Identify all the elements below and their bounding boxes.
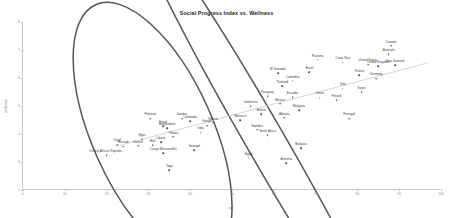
data-point-label: South Africa [259,130,276,133]
data-point-label: Senegal [189,145,200,148]
data-point [388,53,390,55]
data-point [168,170,170,172]
data-point-label: Armenia [281,158,293,161]
data-point [250,105,252,107]
data-point-label: Togo [166,165,173,168]
y-axis-label: wellness [4,99,8,113]
data-point [206,125,208,127]
data-point-label: Bolivia [257,109,266,112]
annotation-layer [40,0,415,218]
data-point [342,62,344,64]
data-point [281,86,283,88]
x-tick-label: 50 [230,192,234,196]
data-point [377,65,379,67]
y-tick-label: 7 [18,48,20,52]
data-point [283,117,285,119]
data-point [359,74,361,76]
data-point-label: Liberia [156,137,165,140]
data-point-label: Paraguay [261,91,274,94]
y-tick-mark [21,50,23,51]
x-tick-label: 0 [22,192,24,196]
x-tick-label: 80 [356,192,360,196]
data-point-label: Australia [383,49,395,52]
data-point-label: Congo (Brazzaville) [150,148,177,151]
data-point-label: Germany [370,73,383,76]
data-point [319,97,321,99]
data-point-label: Costa Rica [335,57,350,60]
x-tick-label: 60 [272,192,276,196]
data-point-label: Panama [312,55,324,58]
data-point-label: Ghana [169,132,178,135]
data-point-label: Niger [138,134,145,137]
data-point-label: Central African Republic [89,150,122,153]
data-point [336,100,338,102]
data-point-label: Thailand [276,81,288,84]
data-point [160,141,162,143]
y-tick-label: 2 [18,188,20,192]
data-point [248,157,250,159]
data-point-label: Morocco [234,115,246,118]
data-point-label: Nigeria [208,118,218,121]
data-point [342,88,344,90]
plot-svg [23,22,441,190]
x-tick-mark [148,189,149,191]
y-tick-label: 8 [18,20,20,24]
data-point-label: Brazil [305,67,313,70]
y-tick-label: 4 [18,132,20,136]
data-point-label: Albania [279,112,289,115]
data-point [394,65,396,67]
data-point-label: Canada [385,41,396,44]
data-point [300,147,302,149]
data-point [106,154,108,156]
y-tick-label: 6 [18,76,20,80]
x-tick-mark [107,189,108,191]
data-point-label: Ecuador [287,92,299,95]
data-point-label: Egypt [245,153,253,156]
data-point [277,72,279,74]
data-point-label: Poland [332,95,342,98]
x-tick-mark [190,189,191,191]
data-point [137,145,139,147]
data-point-label: France [355,70,365,73]
data-point-label: Portugal [343,113,355,116]
chart-title: Social Progress Index vs. Wellness [0,10,453,16]
data-point-label: Guinea [133,140,143,143]
data-point [267,135,269,137]
data-point [189,121,191,123]
data-point [375,78,377,80]
x-tick-mark [316,189,317,191]
data-point-label: Mali [150,140,156,143]
x-tick-mark [357,189,358,191]
y-tick-label: 5 [18,104,20,108]
data-point-label: Cambodia [183,116,197,119]
data-point [292,80,294,82]
data-point [166,128,168,130]
cluster-ellipse-annotation [40,0,265,218]
data-point-label: New Zealand [386,60,404,63]
data-point-label: Spain [358,87,366,90]
data-point [348,118,350,120]
data-point [267,95,269,97]
data-point-label: Bangladesh [159,123,175,126]
x-tick-mark [399,189,400,191]
y-tick-label: 3 [18,160,20,164]
y-tick-mark [21,162,23,163]
chart-figure: Social Progress Index vs. Wellness welln… [0,0,453,218]
data-point [317,59,319,61]
data-point-label: El Salvador [270,68,286,71]
data-point [361,91,363,93]
data-point-label: Pakistan [145,113,157,116]
data-point [308,71,310,73]
data-point [173,136,175,138]
x-tick-mark [232,189,233,191]
x-tick-mark [65,189,66,191]
data-point [285,163,287,165]
x-tick-label: 10 [63,192,67,196]
y-tick-mark [21,134,23,135]
y-tick-mark [21,78,23,79]
data-point [256,129,258,131]
x-tick-mark [23,189,24,191]
data-point [194,149,196,151]
data-point-label: Oman [316,92,324,95]
data-point-label: Colombia [286,76,299,79]
